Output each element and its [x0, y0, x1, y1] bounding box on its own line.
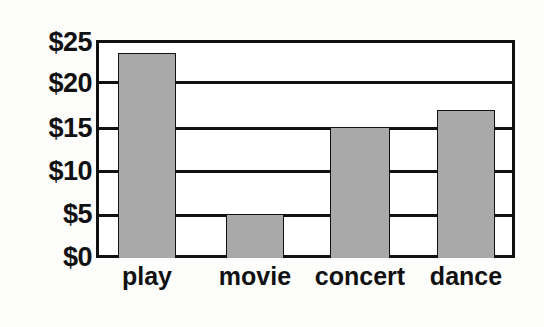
bar-dance — [437, 110, 495, 258]
y-tick-label-0: $0 — [0, 244, 92, 271]
x-tick-label-play: play — [122, 262, 172, 291]
x-tick-label-concert: concert — [315, 262, 405, 291]
bar-play — [118, 53, 176, 258]
x-tick-label-movie: movie — [219, 262, 291, 291]
bar-chart: $25 $20 $15 $10 $5 $0 play movie concert… — [0, 0, 544, 327]
y-tick-label-15: $15 — [0, 115, 92, 142]
y-axis: $25 $20 $15 $10 $5 $0 — [0, 0, 92, 327]
bars-layer — [96, 40, 515, 258]
x-tick-label-dance: dance — [430, 262, 502, 291]
bar-concert — [330, 127, 390, 258]
y-tick-label-25: $25 — [0, 29, 92, 56]
bar-movie — [226, 214, 284, 258]
x-axis: play movie concert dance — [96, 262, 515, 302]
y-tick-label-10: $10 — [0, 158, 92, 185]
y-tick-label-20: $20 — [0, 70, 92, 97]
y-tick-label-5: $5 — [0, 201, 92, 228]
